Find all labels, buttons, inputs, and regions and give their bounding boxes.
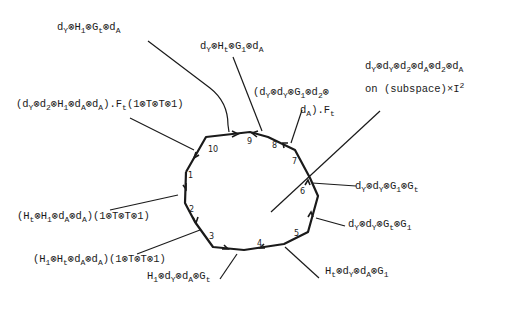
label-top-left: dY⊗H1⊗Gt⊗dA [57, 21, 120, 37]
label-edge-5: dY⊗dY⊗Gt⊗G1 [348, 218, 411, 234]
label-top-middle: dY⊗Ht⊗G1⊗dA [200, 40, 263, 56]
edge-numbers: 1 2 3 4 5 6 7 8 9 10 [188, 137, 305, 248]
edge-number-10: 10 [208, 145, 218, 154]
edge-number-2: 2 [189, 205, 194, 214]
label-edge-6: dY⊗dY⊗G1⊗Gt [355, 180, 418, 196]
leader-edge-6 [312, 183, 356, 186]
label-interior-line2: on (subspace)×I2 [365, 80, 464, 95]
label-edge-3: (H1⊗Ht⊗dA⊗dA)(1⊗T⊗T⊗1) [33, 253, 166, 269]
edge-number-8: 8 [272, 141, 277, 150]
edge-number-5: 5 [294, 229, 299, 238]
edge-number-7: 7 [292, 157, 297, 166]
leader-lines [110, 41, 380, 279]
edge-number-9: 9 [247, 137, 252, 146]
edge-number-6: 6 [300, 187, 305, 196]
label-edge-10: (dY⊗d2⊗H1⊗dA⊗dA).Ft(1⊗T⊗T⊗1) [16, 98, 184, 114]
leader-edge-3 [137, 230, 200, 254]
leader-edge-10 [130, 118, 194, 150]
leader-edge-5 [316, 218, 345, 226]
leader-interior [271, 111, 380, 212]
label-edge-4-5: Ht⊗dY⊗dA⊗G1 [325, 265, 388, 281]
leader-edge-2 [110, 195, 178, 210]
edge-number-4: 4 [257, 239, 262, 248]
label-interior-line1: dY⊗dY⊗d2⊗dA⊗d2⊗dA [365, 60, 463, 76]
label-edge-7-line1: (dY⊗dY⊗G1⊗d2⊗ [253, 86, 329, 102]
leader-edge-3-4 [220, 254, 237, 279]
leader-edge-4-5 [285, 247, 319, 278]
edge-number-1: 1 [188, 171, 193, 180]
edge-number-3: 3 [209, 232, 214, 241]
label-edge-7-line2: dA).Ft [300, 104, 335, 120]
label-edge-3-4: H1⊗dY⊗dA⊗Gt [147, 270, 210, 286]
label-edge-2: (Ht⊗H1⊗dA⊗dA)(1⊗T⊗T⊗1) [17, 210, 150, 226]
